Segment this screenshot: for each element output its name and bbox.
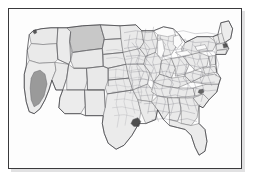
map-region-OR[interactable] (27, 44, 58, 64)
map-region-AZ[interactable] (59, 90, 86, 114)
map-region-FL[interactable] (169, 120, 207, 156)
map-region-NM[interactable] (85, 90, 106, 116)
figure-root (0, 0, 258, 183)
map-frame (8, 8, 242, 169)
map-region-MT[interactable] (67, 25, 105, 53)
map-region-west (24, 25, 108, 116)
map-region-ID[interactable] (57, 28, 72, 65)
map-region-CO[interactable] (86, 66, 108, 90)
map-region-SD[interactable] (102, 39, 123, 55)
map-region-CT-RI[interactable] (216, 49, 227, 54)
us-map-canvas[interactable] (9, 9, 241, 168)
